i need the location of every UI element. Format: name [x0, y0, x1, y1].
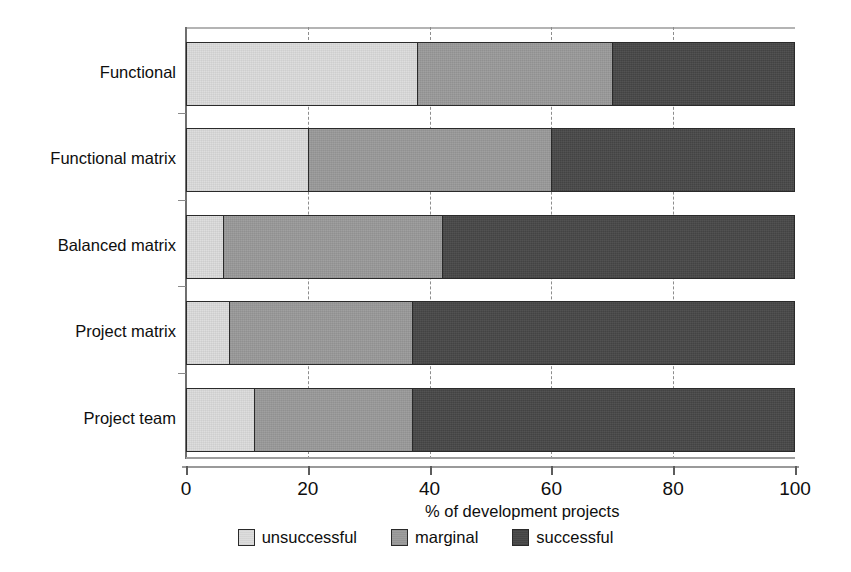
bar-segment-unsuccessful[interactable]	[187, 216, 223, 278]
category-tick	[178, 200, 186, 201]
bar-segment-marginal[interactable]	[254, 389, 412, 451]
bar-segment-marginal[interactable]	[308, 129, 551, 191]
value-tick-label-100: 100	[779, 478, 811, 500]
bar-segment-unsuccessful[interactable]	[187, 389, 254, 451]
category-tick	[178, 373, 186, 374]
value-tick-label-40: 40	[419, 478, 440, 500]
value-tick-label-20: 20	[297, 478, 318, 500]
bar-segment-marginal[interactable]	[223, 216, 442, 278]
value-tick-label-60: 60	[541, 478, 562, 500]
bar-segment-unsuccessful[interactable]	[187, 129, 308, 191]
value-tick-label-0: 0	[181, 478, 192, 500]
category-label-balanced-matrix: Balanced matrix	[6, 236, 176, 255]
legend-swatch-icon	[238, 529, 255, 546]
category-label-functional-matrix: Functional matrix	[6, 149, 176, 168]
legend-item-unsuccessful[interactable]: unsuccessful	[238, 528, 357, 547]
stacked-bar-chart: FunctionalFunctional matrixBalanced matr…	[0, 0, 851, 572]
stacked-bar[interactable]	[186, 128, 795, 192]
bar-segment-unsuccessful[interactable]	[187, 302, 229, 364]
legend-swatch-icon	[512, 529, 529, 546]
value-axis-title: % of development projects	[425, 502, 619, 521]
value-tick-40	[430, 466, 432, 475]
plot-area	[186, 27, 795, 459]
category-label-project-matrix: Project matrix	[6, 322, 176, 341]
stacked-bar[interactable]	[186, 388, 795, 452]
legend-label: unsuccessful	[262, 528, 357, 547]
stacked-bar[interactable]	[186, 301, 795, 365]
bar-segment-marginal[interactable]	[417, 43, 612, 105]
stacked-bar[interactable]	[186, 215, 795, 279]
category-label-project-team: Project team	[6, 409, 176, 428]
plot-bottom-rule	[186, 457, 795, 459]
legend-swatch-icon	[391, 529, 408, 546]
value-tick-100	[795, 466, 797, 475]
category-axis-labels: FunctionalFunctional matrixBalanced matr…	[0, 27, 176, 459]
value-tick-60	[551, 466, 553, 475]
category-tick	[178, 286, 186, 287]
bar-segment-successful[interactable]	[412, 302, 794, 364]
value-tick-20	[308, 466, 310, 475]
legend-item-marginal[interactable]: marginal	[391, 528, 478, 547]
value-tick-0	[186, 466, 188, 475]
plot-top-rule	[186, 27, 795, 29]
bar-segment-successful[interactable]	[612, 43, 795, 105]
value-tick-label-80: 80	[663, 478, 684, 500]
bar-segment-marginal[interactable]	[229, 302, 412, 364]
bar-segment-successful[interactable]	[551, 129, 794, 191]
value-axis-line	[182, 466, 799, 468]
bar-segment-unsuccessful[interactable]	[187, 43, 417, 105]
category-label-functional: Functional	[6, 63, 176, 82]
bar-segment-successful[interactable]	[412, 389, 794, 451]
stacked-bar[interactable]	[186, 42, 795, 106]
value-tick-80	[673, 466, 675, 475]
legend-label: successful	[536, 528, 613, 547]
bar-segment-successful[interactable]	[442, 216, 794, 278]
chart-legend: unsuccessfulmarginalsuccessful	[0, 528, 851, 547]
category-tick	[178, 113, 186, 114]
legend-item-successful[interactable]: successful	[512, 528, 613, 547]
legend-label: marginal	[415, 528, 478, 547]
